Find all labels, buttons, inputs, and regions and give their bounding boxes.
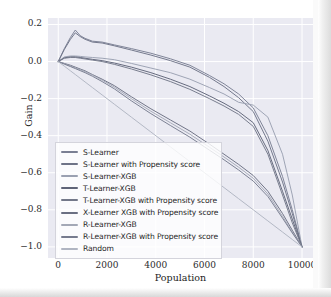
legend-label: Random [83,244,114,253]
legend-color-swatch [61,212,78,214]
legend-label: R-Learner-XGB with Propensity score [83,232,218,241]
legend-item[interactable]: R-Learner-XGB with Propensity score [59,231,217,243]
legend-color-swatch [61,199,78,201]
chart-legend[interactable]: S-LearnerS-Learner with Propensity score… [55,142,222,259]
page-edge-right [318,0,331,297]
legend-item[interactable]: R-Learner-XGB [59,219,217,231]
legend-item[interactable]: T-Learner-XGB [59,182,217,194]
legend-color-swatch [61,224,78,226]
legend-label: S-Learner-XGB [83,172,136,181]
legend-item[interactable]: X-Learner XGB with Propensity score [59,206,217,218]
y-tick-label: 0.2 [2,18,42,28]
legend-label: S-Learner [83,148,119,157]
legend-color-swatch [61,151,78,153]
page-edge-bottom [0,288,331,297]
legend-color-swatch [61,236,78,238]
legend-label: S-Learner with Propensity score [83,160,200,169]
legend-color-swatch [61,163,78,165]
legend-item[interactable]: T-Learner-XGB with Propensity score [59,194,217,206]
legend-label: T-Learner-XGB with Propensity score [83,196,217,205]
y-tick-label: 0.0 [2,56,42,66]
legend-item[interactable]: S-Learner [59,146,217,158]
legend-color-swatch [61,175,78,177]
legend-item[interactable]: Random [59,243,217,255]
y-tick-label: −0.8 [2,204,42,214]
legend-label: T-Learner-XGB [83,184,136,193]
chart-figure: 0.20.0−0.2−0.4−0.6−0.8−1.0 0200040006000… [0,0,331,297]
legend-color-swatch [61,248,78,250]
x-axis-label: Population [48,272,313,283]
y-tick-label: −1.0 [2,241,42,251]
legend-label: X-Learner XGB with Propensity score [83,208,218,217]
legend-color-swatch [61,187,78,189]
legend-item[interactable]: S-Learner-XGB [59,170,217,182]
legend-label: R-Learner-XGB [83,220,137,229]
y-axis-label: Gain [23,86,34,146]
y-tick-label: −0.6 [2,167,42,177]
legend-item[interactable]: S-Learner with Propensity score [59,158,217,170]
